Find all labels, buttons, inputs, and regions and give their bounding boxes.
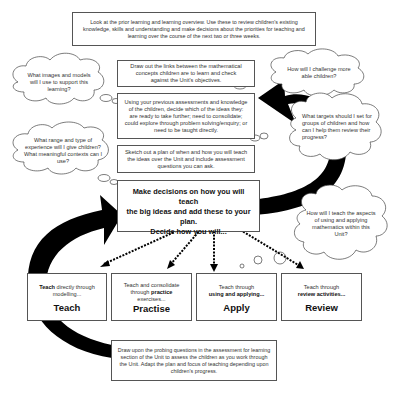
stage-apply-title: Apply [223,304,249,311]
stage-teach: Teach directly through modelling... Teac… [27,273,107,321]
stage-apply-desc: Teach through using and applying... [209,284,265,298]
probing-box: Draw upon the probing questions in the a… [111,340,277,381]
assessments-box: Using your previous assessments and know… [117,93,255,139]
sketch-box: Sketch out a plan of when and how you wi… [117,145,255,173]
cloud-images-models-text: What images and models will I use to sup… [26,64,92,100]
probing-text: Draw upon the probing questions in the a… [117,347,271,375]
cloud-challenge-text: How will I challenge more able children? [286,60,352,86]
prior-learning-text: Look at the prior learning and learning … [77,19,311,40]
cloud-using-applying-text: How will I teach the aspects of using an… [306,202,376,246]
decisions-line-3: Decide how you will... [150,227,226,237]
prior-learning-box: Look at the prior learning and learning … [72,12,316,46]
decisions-line-1: Make decisions on how you will teach [122,187,255,207]
links-box: Draw out the links between the mathemati… [117,60,255,87]
assessments-text: Using your previous assessments and know… [124,99,248,134]
decisions-line-2: the big ideas and add these to your plan… [122,207,255,227]
stage-review-desc: Teach through review activities... [298,284,346,298]
stage-teach-desc: Teach directly through modelling... [32,284,102,298]
cloud-range-experience-text: What range and type of experience will I… [22,132,104,170]
links-text: Draw out the links between the mathemati… [126,63,246,84]
stage-apply: Teach through using and applying... Appl… [196,273,277,321]
stage-review-title: Review [305,304,338,311]
cloud-targets-text: What targets should I set for groups of … [302,104,372,150]
stage-practise-desc: Teach and consolidate through practice e… [116,282,187,303]
sketch-text: Sketch out a plan of when and how you wi… [124,149,248,170]
decisions-box: Make decisions on how you will teach the… [117,180,260,232]
stage-practise-title: Practise [133,305,170,312]
stage-practise: Teach and consolidate through practice e… [111,273,192,321]
stage-review: Teach through review activities... Revie… [281,273,362,321]
stage-teach-title: Teach [54,304,81,311]
